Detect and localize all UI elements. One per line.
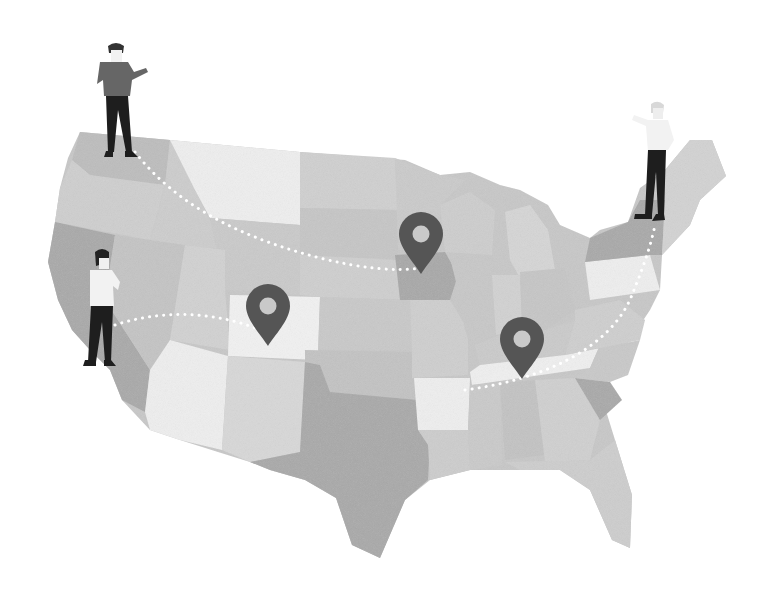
state-south-dakota	[300, 208, 398, 260]
state-nebraska	[300, 255, 410, 300]
pin-hole	[413, 226, 430, 243]
state-new-england	[662, 140, 726, 255]
state-new-york	[585, 200, 665, 262]
person-shoes	[83, 360, 116, 366]
state-north-dakota	[300, 152, 398, 210]
pin-hole	[260, 298, 277, 315]
person-shirt	[97, 62, 148, 96]
state-new-mexico	[222, 356, 305, 462]
person-head	[99, 258, 109, 269]
pin-hole	[514, 331, 531, 348]
person-head	[653, 108, 663, 119]
us-map	[48, 132, 726, 558]
state-mississippi	[468, 383, 502, 470]
person-shirt	[632, 115, 674, 152]
state-kansas	[318, 297, 412, 350]
state-arkansas	[414, 378, 470, 430]
person-head	[111, 50, 122, 62]
us-map-illustration	[0, 0, 773, 607]
